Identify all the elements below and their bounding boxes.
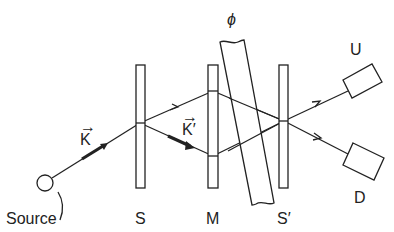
source-circle (37, 175, 53, 191)
phase-label: ϕ (227, 11, 236, 28)
phase-shifter-slab (220, 40, 274, 205)
interferometer-diagram: Source K → K′ → ϕ S M S′ U D (0, 0, 394, 232)
mirror-m (208, 65, 218, 188)
k-vector-arrow-symbol: → (80, 118, 96, 135)
splitter-s-prime-label: S′ (277, 210, 291, 227)
beam-splitter-s (136, 65, 145, 188)
upper-beam-1-arrow (170, 104, 178, 110)
source-label: Source (6, 210, 57, 227)
splitter-s-label: S (135, 210, 146, 227)
beam-splitter-s-prime (279, 65, 288, 188)
mirror-m-label: M (206, 210, 219, 227)
detector-d (343, 143, 384, 180)
source-leader-line (58, 192, 62, 220)
detector-u (343, 64, 382, 98)
output-beam-down (284, 121, 348, 154)
k-prime-vector-arrowhead (185, 141, 195, 150)
detector-d-label: D (354, 189, 366, 206)
detector-u-label: U (350, 41, 362, 58)
phase-shifter: ϕ (220, 11, 274, 205)
source: Source (6, 175, 62, 227)
k-prime-vector-arrow-symbol: → (182, 108, 198, 125)
